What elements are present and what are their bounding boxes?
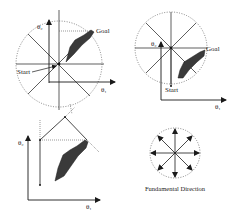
y-axis-label: θ₂ [151,40,157,48]
start-pointer-arrow [32,66,56,72]
obstacle-region [55,140,88,181]
panel-top-left: θ₂ θ₁ Goal Start [16,10,115,114]
apex-dotted-extension [65,107,75,117]
fundamental-direction-arrows [151,129,199,177]
start-label: Start [165,86,178,94]
obstacle-region [66,30,94,62]
start-point [39,184,41,186]
right-dotted-extension [87,140,99,152]
x-axis-label: θ₁ [101,86,107,94]
y-axis-label: θ₂ [37,23,43,31]
x-axis-label: θ₁ [215,103,221,111]
center-point [58,63,61,66]
triangle-path [40,117,87,140]
start-label: Start [17,68,30,76]
fundamental-direction-caption: Fundamental Direction [145,185,206,192]
center-point [170,47,173,50]
goal-label: Goal [96,27,110,35]
arrow-up-left-icon [158,136,175,153]
y-axis-label: θ₂ [18,139,24,147]
figure-canvas: θ₂ θ₁ Goal Start θ₂ θ₁ Goal Start [0,0,236,219]
arrow-down-left-icon [158,153,175,170]
x-axis-label: θ₁ [86,203,92,211]
arrow-down-right-icon [175,153,192,170]
panel-bottom-left: θ₂ θ₁ [18,107,100,211]
panel-top-right: θ₂ θ₁ Goal Start [135,12,226,111]
goal-label: Goal [206,45,220,53]
panel-bottom-right: Fundamental Direction [145,128,206,192]
arrow-up-right-icon [175,136,192,153]
apex-point [64,116,66,118]
obstacle-region [178,50,205,78]
